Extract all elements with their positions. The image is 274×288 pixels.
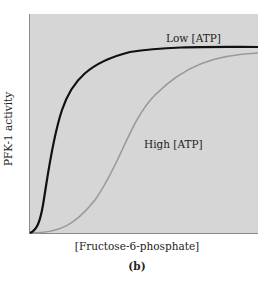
y-axis-label: PFK-1 activity: [3, 92, 14, 166]
panel-label: (b): [0, 260, 274, 272]
label-high-atp: High [ATP]: [144, 139, 203, 150]
label-low-atp: Low [ATP]: [166, 33, 221, 44]
x-axis-label: [Fructose-6-phosphate]: [0, 240, 274, 252]
